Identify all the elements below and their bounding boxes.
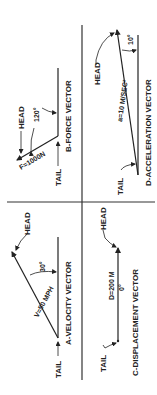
tail-label: TAIL bbox=[54, 169, 63, 186]
angle-arc bbox=[31, 128, 34, 152]
angle-leader bbox=[42, 108, 56, 113]
angle-label: 10° bbox=[127, 34, 134, 45]
head-leader bbox=[16, 234, 27, 250]
angle-label: 0° bbox=[118, 284, 125, 291]
head-label: HEAD bbox=[99, 207, 108, 230]
panel-title: B-FORCE VECTOR bbox=[64, 80, 73, 152]
head-label: HEAD bbox=[17, 106, 26, 129]
magnitude-label: V=50 MPH bbox=[33, 285, 55, 318]
panel-d-acceleration: HEAD 10° a=10 M/SEC² TAIL D-ACCELERATION… bbox=[93, 30, 153, 195]
panel-b-force: HEAD 120° F=1000N TAIL B-FORCE VECTOR bbox=[17, 68, 73, 186]
angle-label: 30° bbox=[39, 261, 46, 272]
head-leader bbox=[103, 230, 116, 247]
magnitude-label: D=200 M bbox=[108, 271, 115, 300]
angle-arc bbox=[122, 50, 136, 51]
panel-title: A-VELOCITY VECTOR bbox=[64, 261, 73, 345]
tail-leader bbox=[103, 343, 116, 348]
angle-label: 120° bbox=[33, 107, 40, 122]
head-label: HEAD bbox=[23, 212, 32, 235]
magnitude-label: F=1000N bbox=[18, 150, 46, 171]
panel-a-velocity: HEAD 30° V=50 MPH TAIL A-VELOCITY VECTOR bbox=[12, 212, 73, 378]
panel-c-displacement: HEAD D=200 M 0° TAIL C-DISPLACEMENT VECT… bbox=[99, 207, 140, 376]
head-label: HEAD bbox=[93, 62, 102, 85]
tail-label: TAIL bbox=[99, 355, 108, 372]
tail-label: TAIL bbox=[116, 178, 125, 195]
tail-leader bbox=[121, 164, 135, 170]
head-leader bbox=[96, 33, 114, 65]
panel-title: C-DISPLACEMENT VECTOR bbox=[131, 269, 140, 376]
tail-label: TAIL bbox=[54, 361, 63, 378]
panel-title: D-ACCELERATION VECTOR bbox=[144, 79, 153, 186]
vector-diagram: HEAD 120° F=1000N TAIL B-FORCE VECTOR HE… bbox=[0, 0, 157, 395]
